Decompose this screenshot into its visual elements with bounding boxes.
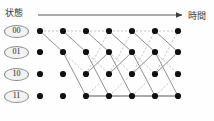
state-badge-11: 11 [4, 90, 29, 103]
trellis-node [106, 93, 112, 99]
trellis-node [175, 28, 181, 34]
trellis-node [60, 71, 66, 77]
trellis-edge [86, 31, 109, 52]
trellis-edge [155, 52, 178, 96]
trellis-node [37, 71, 43, 77]
trellis-edge [155, 31, 178, 74]
trellis-edge [86, 74, 109, 96]
trellis-node [175, 49, 181, 55]
state-badge-10: 10 [4, 68, 29, 81]
trellis-node [37, 28, 43, 34]
state-badge-label: 01 [13, 48, 21, 56]
trellis-edge [109, 74, 132, 96]
trellis-node [152, 28, 158, 34]
trellis-canvas [0, 0, 214, 121]
trellis-node-group [37, 28, 181, 99]
state-badge-label: 00 [13, 27, 21, 35]
trellis-edge [86, 31, 109, 74]
trellis-node [83, 71, 89, 77]
trellis-node [60, 28, 66, 34]
state-badge-label: 10 [13, 70, 21, 78]
trellis-node [83, 49, 89, 55]
trellis-node [83, 28, 89, 34]
trellis-node [106, 49, 112, 55]
trellis-figure: 状態 時間 00011011 [0, 0, 214, 121]
trellis-edge [109, 31, 132, 74]
trellis-node [175, 71, 181, 77]
trellis-node [106, 28, 112, 34]
trellis-edge [132, 31, 155, 52]
trellis-node [129, 71, 135, 77]
trellis-edge [40, 31, 63, 52]
trellis-node [152, 49, 158, 55]
trellis-node [129, 28, 135, 34]
state-badge-01: 01 [4, 46, 29, 59]
trellis-edge [132, 31, 155, 74]
trellis-node [106, 71, 112, 77]
trellis-node [152, 93, 158, 99]
trellis-node [37, 49, 43, 55]
trellis-node [60, 49, 66, 55]
trellis-node [60, 93, 66, 99]
trellis-edge [132, 52, 155, 96]
trellis-edge [86, 52, 109, 96]
trellis-edge [155, 74, 178, 96]
trellis-node [175, 93, 181, 99]
trellis-node [83, 93, 89, 99]
trellis-edge [132, 74, 155, 96]
state-badge-label: 11 [13, 92, 21, 100]
trellis-node [129, 49, 135, 55]
trellis-edge [63, 52, 86, 74]
trellis-node [152, 71, 158, 77]
trellis-edge-group [40, 31, 178, 96]
trellis-edge [155, 31, 178, 52]
trellis-node [37, 93, 43, 99]
trellis-edge [63, 52, 86, 96]
trellis-edge [109, 31, 132, 52]
trellis-node [129, 93, 135, 99]
trellis-edge [109, 52, 132, 96]
trellis-edge [63, 31, 86, 52]
state-badge-00: 00 [4, 25, 29, 38]
